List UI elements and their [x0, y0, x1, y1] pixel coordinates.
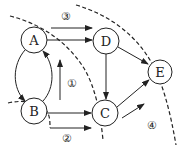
cut-label-2: ② — [62, 132, 72, 145]
svg-text:B: B — [29, 104, 39, 119]
cut-label-1: ① — [67, 77, 77, 90]
node-e: E — [148, 60, 172, 84]
edge-c-e — [117, 80, 149, 107]
cut-label-3: ③ — [61, 10, 71, 23]
svg-text:E: E — [155, 65, 165, 80]
cut-label-4: ④ — [147, 119, 157, 132]
node-c: C — [92, 100, 118, 126]
node-a: A — [21, 27, 47, 53]
edge-a-b — [15, 50, 25, 101]
edge-b-a — [43, 51, 52, 101]
edge-d-e — [118, 47, 148, 64]
node-b: B — [21, 98, 47, 124]
node-d: D — [93, 28, 119, 54]
svg-text:A: A — [28, 33, 39, 48]
flow-diagram: A B C D E ③ ① ② ④ — [0, 0, 188, 152]
svg-text:D: D — [101, 34, 111, 49]
svg-text:C: C — [100, 106, 110, 121]
cut-arrow-4 — [122, 104, 144, 118]
